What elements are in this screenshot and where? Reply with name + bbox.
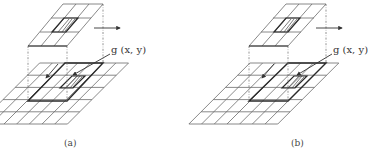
caption-b: (b) [291,138,304,148]
leader-line-b [297,54,332,75]
pixel-label-a: g (x, y) [111,44,146,55]
panel-a: g (x, y) (a) [0,4,146,148]
kernel-grid-a [28,4,103,46]
kernel-grid-b [249,4,326,46]
convolution-window-diagram: g (x, y) (a) [0,0,368,155]
caption-a: (a) [64,138,76,148]
pixel-label-b: g (x, y) [333,44,368,55]
panel-b: g (x, y) (b) [189,4,368,148]
leader-line-a [73,54,110,75]
direction-arrow-b [262,64,274,78]
image-grid-a [0,63,128,124]
